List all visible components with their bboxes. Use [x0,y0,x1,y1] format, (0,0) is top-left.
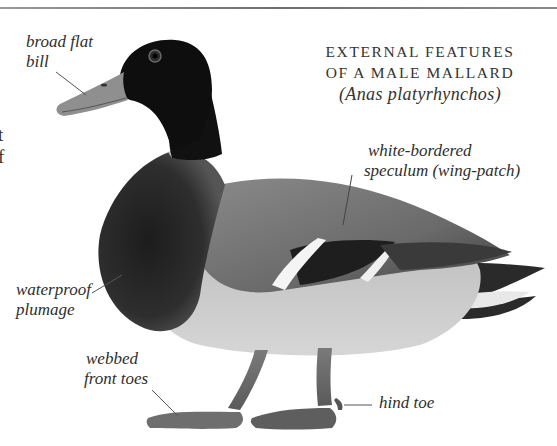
label-speculum-line1: white-bordered [364,141,520,161]
toes-leader-line [152,390,178,416]
bill-leader-line [56,72,86,95]
label-hind-toe: hind toe [379,393,434,413]
label-bill-line2: bill [26,52,93,72]
label-plumage-line2: plumage [16,300,91,320]
label-toes-line1: webbed [84,349,148,369]
label-toes-line2: front toes [84,369,148,389]
title-line-2: OF A MALE MALLARD [300,62,540,83]
label-bill: broad flat bill [26,32,93,72]
label-speculum-line2: speculum (wing-patch) [364,161,520,181]
label-toes: webbed front toes [84,349,148,389]
title-line-1: EXTERNAL FEATURES [300,41,540,62]
label-plumage: waterproof plumage [16,280,91,320]
label-bill-line1: broad flat [26,32,93,52]
label-plumage-line1: waterproof [16,280,91,300]
label-speculum: white-bordered speculum (wing-patch) [364,141,520,181]
figure-title: EXTERNAL FEATURES OF A MALE MALLARD (Ana… [300,41,540,105]
scientific-name: (Anas platyrhynchos) [300,84,540,105]
